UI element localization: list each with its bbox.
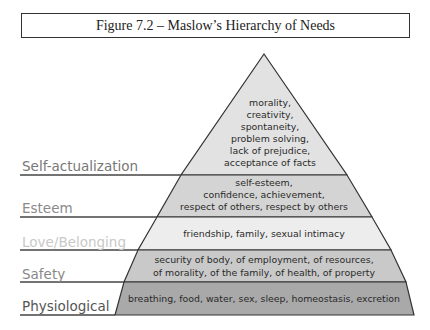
maslow-pyramid: morality, creativity, spontaneity, probl…: [0, 0, 430, 330]
level-esteem: self-esteem, confidence, achievement, re…: [157, 175, 372, 217]
level-text: problem solving,: [231, 133, 309, 144]
label-safety: Safety: [22, 266, 65, 282]
level-text: morality,: [249, 97, 291, 108]
level-physiological: breathing, food, water, sex, sleep, home…: [115, 282, 414, 315]
level-text: creativity,: [247, 109, 294, 120]
level-safety: security of body, of employment, of reso…: [124, 250, 406, 282]
level-love-belonging: friendship, family, sexual intimacy: [138, 217, 391, 250]
level-text: lack of prejudice,: [230, 145, 310, 156]
level-text: security of body, of employment, of reso…: [154, 254, 373, 265]
level-text: confidence, achievement,: [203, 189, 324, 200]
level-text: friendship, family, sexual intimacy: [183, 228, 345, 239]
label-esteem: Esteem: [22, 200, 73, 216]
level-text: breathing, food, water, sex, sleep, home…: [128, 293, 400, 304]
level-text: of morality, of the family, of health, o…: [153, 267, 375, 278]
label-self-actualization: Self-actualization: [22, 158, 138, 174]
level-self-actualization: morality, creativity, spontaneity, probl…: [181, 54, 347, 175]
label-physiological: Physiological: [22, 298, 110, 314]
level-text: acceptance of facts: [224, 157, 316, 168]
label-love-belonging: Love/Belonging: [22, 234, 126, 250]
level-text: respect of others, respect by others: [180, 201, 348, 212]
level-text: spontaneity,: [241, 121, 299, 132]
level-text: self-esteem,: [235, 177, 292, 188]
